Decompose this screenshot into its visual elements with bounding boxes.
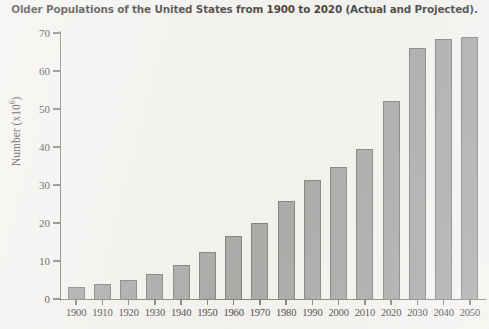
bar-slot [299,33,325,299]
x-axis-tick [352,300,378,306]
bar-slot [457,33,483,299]
x-axis-tick-mark [390,300,391,305]
bar-slot [352,33,378,299]
bar[interactable] [173,265,190,299]
chart-title: Older Populations of the United States f… [0,3,489,15]
y-axis-tick-mark [53,260,61,261]
bar-slot [194,33,220,299]
y-axis-tick: 0 [45,293,62,305]
bar[interactable] [251,223,268,299]
x-axis-tick-mark [443,300,444,305]
bar-slot [431,33,457,299]
bar[interactable] [94,284,111,299]
bar-slot [378,33,404,299]
x-axis-tick-label: 1930 [142,307,168,318]
x-axis-tick-mark [417,300,418,305]
x-axis-tick-label: 2030 [404,307,430,318]
bar[interactable] [330,167,347,299]
x-axis-tick-mark [75,300,76,305]
bar-slot [273,33,299,299]
y-axis-title-close: ) [10,97,22,101]
y-axis-tick-mark [53,70,61,71]
y-axis-tick-label: 30 [39,179,50,191]
x-axis-tick-mark [364,300,365,305]
x-axis-ticks [61,300,485,306]
y-axis-tick-mark [53,32,61,33]
y-axis-tick-label: 20 [39,217,50,229]
x-axis-tick-mark [312,300,313,305]
x-axis-tick-mark [259,300,260,305]
x-axis-tick-mark [154,300,155,305]
y-axis-tick: 30 [39,179,61,191]
y-axis-tick: 40 [39,141,61,153]
bar[interactable] [68,287,85,299]
bar[interactable] [435,39,452,299]
x-axis-tick-mark [233,300,234,305]
bar[interactable] [225,236,242,299]
y-axis-tick-mark [53,184,61,185]
x-axis-tick [457,300,483,306]
x-axis-tick-label: 2050 [457,307,483,318]
x-axis-tick-label: 1910 [89,307,115,318]
x-axis-tick [299,300,325,306]
x-axis-tick-label: 1990 [299,307,325,318]
x-axis-tick-label: 2040 [431,307,457,318]
bar[interactable] [409,48,426,299]
bar[interactable] [383,101,400,299]
x-axis-tick-label: 2020 [378,307,404,318]
y-axis-tick-mark [53,146,61,147]
x-axis-tick [168,300,194,306]
bar-slot [116,33,142,299]
x-axis-tick [194,300,220,306]
y-axis-tick-mark [53,298,61,299]
x-axis-tick-mark [469,300,470,305]
plot-area: 010203040506070 [61,33,485,299]
bar-slot [63,33,89,299]
bar[interactable] [278,201,295,299]
bar-slot [142,33,168,299]
x-axis-tick-label: 1920 [116,307,142,318]
bar-slot [89,33,115,299]
bar-slot [326,33,352,299]
x-axis-tick [89,300,115,306]
x-axis-tick-mark [128,300,129,305]
y-axis-title-exponent: 6 [8,101,17,105]
bar-slot [404,33,430,299]
y-axis-tick: 10 [39,255,61,267]
y-axis-tick: 20 [39,217,61,229]
y-axis-tick-label: 50 [39,103,50,115]
bar-slot [168,33,194,299]
x-axis-tick-mark [207,300,208,305]
x-axis-tick-label: 1970 [247,307,273,318]
bar[interactable] [461,37,478,299]
x-axis-tick [142,300,168,306]
x-axis-tick [326,300,352,306]
x-axis-tick-label: 2000 [326,307,352,318]
bar[interactable] [304,180,321,299]
x-axis-tick-mark [285,300,286,305]
x-axis-tick [404,300,430,306]
y-axis-tick-label: 40 [39,141,50,153]
x-axis-tick-mark [102,300,103,305]
x-axis-tick-label: 1900 [63,307,89,318]
y-axis-tick-label: 70 [39,27,50,39]
x-axis-tick-mark [338,300,339,305]
y-axis-tick-label: 0 [45,293,51,305]
bar[interactable] [146,274,163,299]
x-axis-tick [378,300,404,306]
bar[interactable] [120,280,137,299]
y-axis-tick-mark [53,222,61,223]
bar[interactable] [199,252,216,299]
x-axis-tick [116,300,142,306]
bar[interactable] [356,149,373,299]
x-axis-tick [221,300,247,306]
y-axis-title-base: Number (x10 [10,104,22,166]
y-axis-tick-label: 10 [39,255,50,267]
x-axis-tick-label: 1960 [221,307,247,318]
y-axis-tick-mark [53,108,61,109]
y-axis-title: Number (x106) [8,97,22,166]
x-axis-tick-label: 1940 [168,307,194,318]
bar-series [61,33,485,299]
x-axis-tick-label: 1980 [273,307,299,318]
x-axis-labels: 1900191019201930194019501960197019801990… [61,307,485,318]
